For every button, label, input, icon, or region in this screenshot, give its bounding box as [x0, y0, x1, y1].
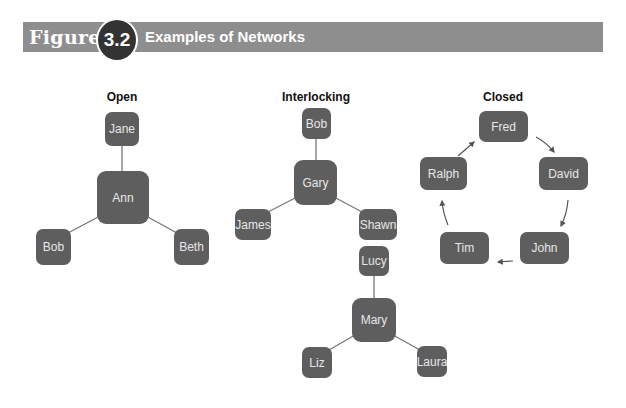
node-beth: Beth: [174, 229, 209, 265]
node-lucy: Lucy: [359, 246, 389, 276]
node-tim: Tim: [440, 232, 489, 264]
node-bob-interlocking: Bob: [302, 108, 331, 139]
arrow-david-john: [561, 200, 568, 226]
edge-gary-james: [268, 197, 297, 212]
node-david: David: [539, 157, 588, 190]
node-liz: Liz: [302, 347, 332, 378]
edge-gary-shawn: [334, 197, 362, 212]
node-john: John: [520, 232, 569, 264]
arrow-tim-ralph: [442, 201, 448, 225]
arrow-ralph-fred: [458, 142, 474, 156]
node-mary: Mary: [352, 298, 396, 342]
edge-ann-bob: [68, 216, 100, 233]
node-ralph: Ralph: [420, 157, 467, 190]
node-shawn: Shawn: [359, 209, 397, 240]
node-bob: Bob: [36, 229, 71, 265]
arrow-fred-david: [536, 137, 554, 152]
node-jane: Jane: [105, 112, 139, 146]
edge-ann-beth: [146, 216, 177, 233]
arrow-john-tim: [498, 261, 513, 262]
edge-mary-laura: [393, 335, 420, 350]
edge-mary-liz: [329, 335, 355, 350]
node-laura: Laura: [417, 346, 447, 377]
node-james: James: [235, 209, 271, 240]
node-ann: Ann: [97, 171, 149, 224]
node-gary: Gary: [294, 160, 337, 205]
node-fred: Fred: [479, 111, 528, 142]
